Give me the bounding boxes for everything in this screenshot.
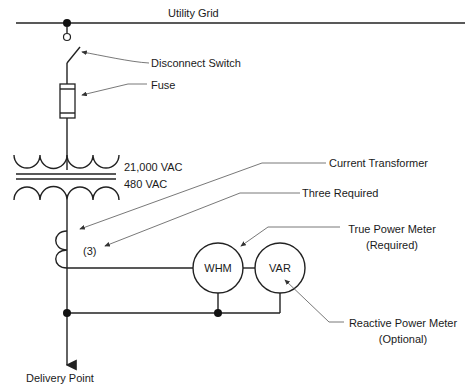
primary-voltage-label: 21,000 VAC — [124, 161, 183, 173]
junction-dot — [214, 309, 222, 317]
var-meter: VAR — [255, 243, 305, 293]
true-power-meter-leader — [241, 227, 340, 246]
three-required-leader — [105, 193, 300, 246]
current-transformer-leader — [80, 163, 326, 229]
one-line-diagram: Utility Grid Disconnect Switch Fuse 21,0… — [0, 0, 465, 388]
true-power-meter-label: True Power Meter — [348, 223, 436, 235]
ct-count-label: (3) — [83, 245, 96, 257]
current-transformer-icon — [56, 231, 67, 268]
disconnect-switch-label: Disconnect Switch — [151, 57, 241, 69]
fuse-label: Fuse — [151, 79, 175, 91]
grid-junction-dot — [63, 19, 71, 27]
three-required-label: Three Required — [302, 187, 378, 199]
secondary-voltage-label: 480 VAC — [124, 178, 167, 190]
true-power-meter-note: (Required) — [366, 239, 418, 251]
fuse-leader — [82, 84, 147, 95]
utility-grid-label: Utility Grid — [168, 7, 219, 19]
utility-grid-bus — [16, 19, 465, 27]
delivery-point-label: Delivery Point — [26, 372, 94, 384]
whm-meter: WHM — [193, 243, 243, 293]
var-meter-label: VAR — [269, 262, 291, 274]
junction-dot — [63, 309, 71, 317]
disconnect-switch-leader — [82, 52, 149, 63]
disconnect-switch-icon — [64, 27, 81, 84]
current-transformer-label: Current Transformer — [329, 157, 428, 169]
whm-meter-label: WHM — [204, 262, 232, 274]
meter-return-lines — [63, 293, 280, 317]
reactive-power-meter-note: (Optional) — [379, 333, 427, 345]
reactive-power-meter-label: Reactive Power Meter — [349, 317, 458, 329]
